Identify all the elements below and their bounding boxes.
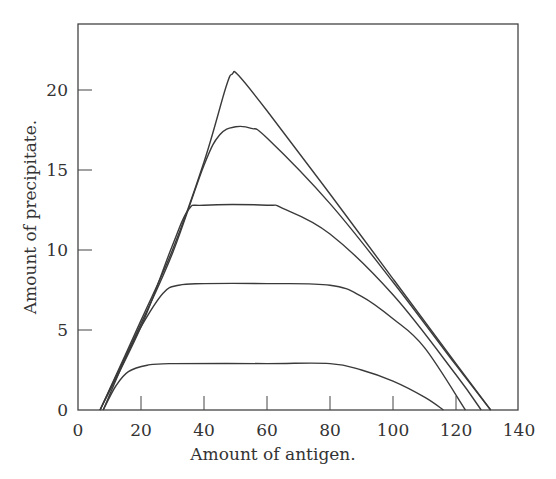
- x-axis-ticks: [141, 396, 456, 410]
- x-tick-label: 60: [256, 420, 278, 440]
- y-tick-label: 0: [57, 400, 68, 420]
- x-tick-label: 80: [319, 420, 341, 440]
- curve-2-line: [100, 126, 491, 410]
- y-tick-label: 5: [57, 320, 68, 340]
- plot-frame: [78, 24, 518, 410]
- curve-5-line: [103, 363, 443, 410]
- y-tick-label: 10: [46, 240, 68, 260]
- x-tick-label: 120: [440, 420, 472, 440]
- x-tick-label: 20: [130, 420, 152, 440]
- x-tick-label: 100: [377, 420, 409, 440]
- curve-3-line: [100, 205, 481, 410]
- y-tick-label: 20: [46, 80, 68, 100]
- x-tick-label: 140: [503, 420, 535, 440]
- y-axis-ticks: [78, 90, 92, 330]
- x-axis-title: Amount of antigen.: [189, 444, 355, 464]
- x-axis-tick-labels: 020406080100120140: [73, 420, 536, 440]
- x-tick-label: 0: [73, 420, 84, 440]
- x-tick-label: 40: [193, 420, 215, 440]
- y-axis-tick-labels: 05101520: [46, 80, 68, 420]
- y-axis-title: Amount of precipitate.: [20, 120, 40, 315]
- curves: [100, 72, 491, 410]
- y-tick-label: 15: [46, 160, 68, 180]
- precipitin-chart: 020406080100120140 05101520 Amount of an…: [0, 0, 556, 479]
- curve-1-line: [100, 72, 491, 410]
